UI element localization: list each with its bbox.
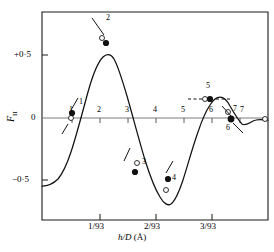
data-curve [42, 55, 268, 205]
y-axis-title-main: F [5, 116, 16, 122]
inline-tick-label-4: 4 [153, 106, 157, 114]
point-label-6: 6 [226, 124, 230, 132]
x-axis-title-unit: (Å) [134, 232, 147, 242]
inline-tick-label-2: 2 [97, 106, 101, 114]
y-tick-label-plus-half: +0·5 [14, 50, 31, 59]
inline-tick-label-5: 5 [181, 106, 185, 114]
figure-canvas [0, 0, 274, 252]
open-point-4 [164, 188, 169, 193]
y-axis-title: FII [5, 100, 19, 122]
tangent-4 [166, 161, 173, 173]
tangent-2 [92, 18, 104, 35]
inline-tick-label-6: 6 [209, 106, 213, 114]
y-axis-title-subscript: II [11, 111, 19, 116]
x-axis-title: h/D (Å) [118, 232, 146, 242]
point-label-2: 2 [106, 14, 110, 22]
point-label-5: 5 [206, 82, 210, 90]
x-axis-title-main: h/D [118, 232, 132, 242]
data-point-5 [207, 96, 213, 102]
tangent-6b [233, 123, 243, 133]
point-label-1: 1 [79, 98, 83, 106]
point-label-3: 3 [142, 158, 146, 166]
point-label-4: 4 [172, 174, 176, 182]
open-point-end [263, 117, 268, 122]
data-point-2 [103, 40, 109, 46]
x-tick-label-2: 2/93 [144, 222, 160, 231]
point-label-7: 7 [233, 105, 237, 113]
x-tick-marks [100, 214, 212, 220]
inline-tick-label-7: 7 [240, 106, 244, 114]
tangent-3 [124, 148, 130, 161]
inline-tick-label-1: 1 [69, 106, 73, 114]
tangent-indicators [62, 18, 243, 173]
y-tick-label-zero: 0 [31, 113, 36, 122]
x-tick-label-3: 3/93 [200, 222, 216, 231]
tangent-1b [62, 124, 68, 134]
x-tick-label-1: 1/93 [88, 222, 104, 231]
inline-tick-label-3: 3 [125, 106, 129, 114]
inline-tick-marks [72, 118, 240, 123]
open-point-3 [135, 161, 140, 166]
y-tick-marks [42, 55, 48, 180]
open-point-2 [100, 36, 105, 41]
open-point-5 [203, 97, 208, 102]
y-tick-label-minus-half: −0·5 [12, 175, 29, 184]
open-point-1 [69, 116, 74, 121]
data-point-3 [132, 169, 138, 175]
data-point-4 [165, 176, 171, 182]
